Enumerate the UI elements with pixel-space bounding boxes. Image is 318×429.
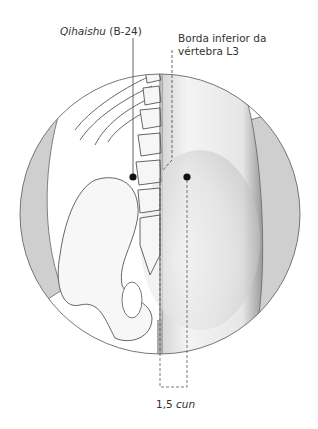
measure-value: 1,5 xyxy=(156,398,173,410)
circle-view xyxy=(0,60,318,370)
acupoint-dot-right xyxy=(183,173,190,180)
point-label: Qihaishu (B-24) xyxy=(60,25,142,38)
measure-label: 1,5 cun xyxy=(156,398,195,411)
landmark-line1: Borda inferior da xyxy=(178,32,266,45)
point-code: (B-24) xyxy=(109,25,142,37)
acupoint-dot-left xyxy=(129,173,136,180)
landmark-label: Borda inferior da vértebra L3 xyxy=(178,32,266,58)
measure-unit: cun xyxy=(176,398,195,410)
acupuncture-diagram xyxy=(0,0,318,429)
point-name: Qihaishu xyxy=(60,25,106,37)
landmark-line2: vértebra L3 xyxy=(178,45,266,58)
